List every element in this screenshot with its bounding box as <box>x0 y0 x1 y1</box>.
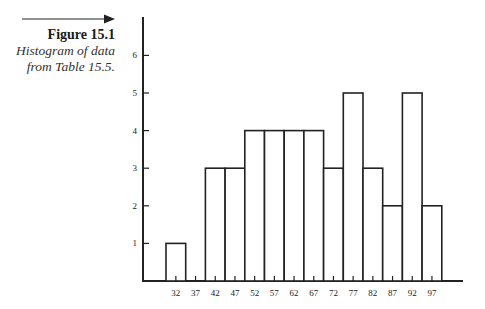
y-axis-ticks: 123456 <box>133 50 150 248</box>
x-tick-label: 62 <box>290 288 299 298</box>
bar-32 <box>166 243 186 281</box>
bar-57 <box>265 131 285 281</box>
y-tick-label: 3 <box>133 163 138 173</box>
x-tick-label: 37 <box>191 288 201 298</box>
x-tick-label: 42 <box>211 288 220 298</box>
bar-97 <box>422 206 442 281</box>
x-tick-label: 32 <box>171 288 180 298</box>
histogram-chart: 3237424752576267727782879297 123456 <box>0 0 485 309</box>
bar-42 <box>205 168 225 281</box>
bar-67 <box>304 131 324 281</box>
y-tick-label: 2 <box>133 201 138 211</box>
x-tick-label: 92 <box>408 288 417 298</box>
x-tick-label: 72 <box>329 288 338 298</box>
bar-92 <box>402 93 422 281</box>
bar-82 <box>363 168 383 281</box>
histogram-bars <box>166 93 442 281</box>
y-tick-label: 1 <box>133 238 138 248</box>
x-tick-label: 82 <box>368 288 377 298</box>
bar-87 <box>383 206 403 281</box>
x-tick-label: 77 <box>349 288 359 298</box>
bar-77 <box>343 93 363 281</box>
x-tick-label: 52 <box>250 288 259 298</box>
x-tick-label: 47 <box>230 288 240 298</box>
y-tick-label: 6 <box>133 50 138 60</box>
bar-47 <box>225 168 245 281</box>
x-tick-label: 97 <box>427 288 437 298</box>
x-tick-label: 87 <box>388 288 398 298</box>
bar-72 <box>324 168 344 281</box>
y-tick-label: 5 <box>133 88 138 98</box>
x-tick-label: 67 <box>309 288 319 298</box>
arrow-right-icon <box>22 15 115 24</box>
y-tick-label: 4 <box>133 126 138 136</box>
x-tick-label: 57 <box>270 288 280 298</box>
bar-62 <box>284 131 304 281</box>
bar-52 <box>245 131 265 281</box>
